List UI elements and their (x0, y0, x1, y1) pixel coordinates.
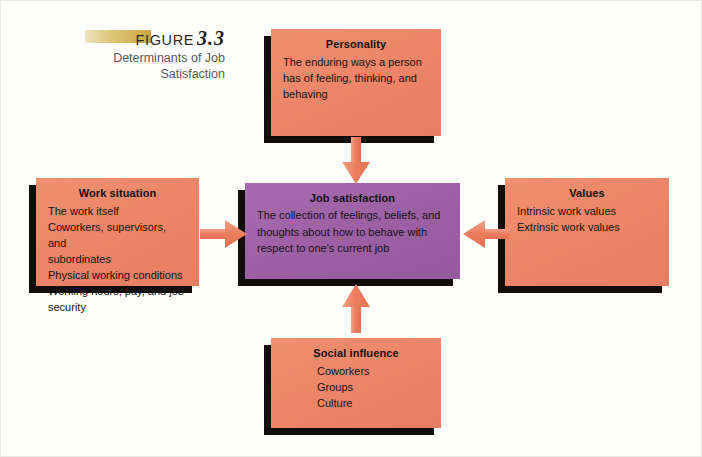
arrow-right-icon (200, 220, 247, 248)
figure-caption-line-1: Determinants of Job (53, 50, 225, 66)
box-work-situation-line-5: Working hours, pay, and job security (48, 283, 187, 315)
box-job-satisfaction: Job satisfaction The collection of feeli… (245, 183, 460, 279)
arrow-down-icon (342, 137, 370, 184)
box-social-influence: Social influence Coworkers Groups Cultur… (271, 338, 441, 428)
arrow-up-icon (342, 283, 370, 333)
box-work-situation-title: Work situation (48, 187, 187, 199)
figure-caption: Determinants of Job Satisfaction (53, 50, 225, 82)
box-social-influence-title: Social influence (283, 347, 429, 359)
figure-page: FIGURE3.3 Determinants of Job Satisfacti… (0, 0, 702, 457)
box-face: Values Intrinsic work values Extrinsic w… (505, 178, 669, 286)
figure-number: 3.3 (197, 27, 225, 49)
box-personality-body: The enduring ways a person has of feelin… (283, 54, 429, 102)
figure-caption-line-2: Satisfaction (53, 66, 225, 82)
box-job-satisfaction-line-1: The collection of feelings, beliefs, and (257, 207, 448, 224)
box-job-satisfaction-line-3: respect to one's current job (257, 240, 448, 257)
box-face: Personality The enduring ways a person h… (271, 29, 441, 136)
box-social-influence-body: Coworkers Groups Culture (283, 363, 429, 411)
box-values-title: Values (517, 187, 657, 199)
box-values-body: Intrinsic work values Extrinsic work val… (517, 203, 657, 235)
box-personality-line-2: has of feeling, thinking, and (283, 70, 429, 86)
figure-header: FIGURE3.3 Determinants of Job Satisfacti… (53, 27, 225, 82)
box-social-influence-line-2: Groups (317, 379, 429, 395)
box-work-situation-body: The work itself Coworkers, supervisors, … (48, 203, 187, 315)
box-values: Values Intrinsic work values Extrinsic w… (505, 178, 669, 286)
box-job-satisfaction-line-2: thoughts about how to behave with (257, 224, 448, 241)
box-job-satisfaction-title: Job satisfaction (257, 192, 448, 204)
box-work-situation-line-3: subordinates (48, 251, 187, 267)
box-social-influence-line-3: Culture (317, 395, 429, 411)
box-work-situation: Work situation The work itself Coworkers… (36, 178, 199, 286)
box-job-satisfaction-body: The collection of feelings, beliefs, and… (257, 207, 448, 257)
box-values-line-2: Extrinsic work values (517, 219, 657, 235)
box-social-influence-line-1: Coworkers (317, 363, 429, 379)
box-face: Work situation The work itself Coworkers… (36, 178, 199, 286)
arrow-left-icon (463, 220, 510, 248)
box-work-situation-line-1: The work itself (48, 203, 187, 219)
box-values-line-1: Intrinsic work values (517, 203, 657, 219)
box-personality: Personality The enduring ways a person h… (271, 29, 441, 136)
box-face: Job satisfaction The collection of feeli… (245, 183, 460, 279)
box-personality-line-1: The enduring ways a person (283, 54, 429, 70)
box-face: Social influence Coworkers Groups Cultur… (271, 338, 441, 428)
box-personality-title: Personality (283, 38, 429, 50)
box-personality-line-3: behaving (283, 86, 429, 102)
box-work-situation-line-2: Coworkers, supervisors, and (48, 219, 187, 251)
box-work-situation-line-4: Physical working conditions (48, 267, 187, 283)
figure-label-row: FIGURE3.3 (53, 27, 225, 44)
figure-label: FIGURE (136, 32, 194, 48)
